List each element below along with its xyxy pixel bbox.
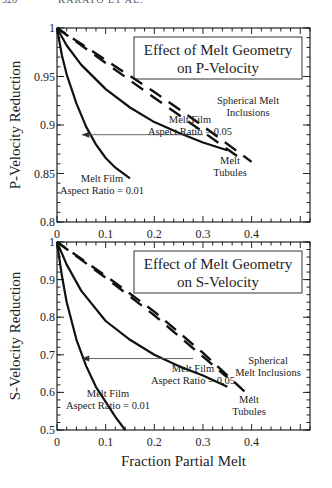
- annotation-label: Tubules: [232, 406, 265, 417]
- x-tick-label: 0.4: [244, 227, 259, 241]
- annotation-label: Aspect Ratio = 0.05: [148, 126, 232, 137]
- x-tick-label: 0.3: [195, 227, 210, 241]
- melt-geometry-figure: 00.10.20.30.40.80.850.90.951P-Velocity R…: [0, 0, 332, 488]
- x-tick-label: 0.4: [244, 435, 259, 449]
- x-tick-label: 0.2: [147, 227, 162, 241]
- s-velocity-chart: 00.10.20.30.40.50.60.70.80.91S-Velocity …: [7, 235, 310, 469]
- chart-title-line-1: Effect of Melt Geometry: [144, 256, 293, 272]
- annotation-label: Melt Film: [172, 363, 214, 374]
- x-tick-label: 0.2: [147, 435, 162, 449]
- y-tick-label: 0.95: [34, 70, 55, 84]
- y-tick-label: 1: [49, 235, 55, 249]
- x-tick-label: 0: [54, 435, 60, 449]
- annotation-label: Melt Film: [169, 114, 211, 125]
- chart-title-line-1: Effect of Melt Geometry: [144, 42, 293, 58]
- y-tick-label: 0.9: [40, 118, 55, 132]
- y-axis-label: S-Velocity Reduction: [7, 271, 23, 400]
- annotation-label: Spherical Melt: [217, 95, 279, 106]
- y-tick-label: 0.5: [40, 423, 55, 437]
- annotation-label: Aspect Ratio = 0.05: [151, 375, 235, 386]
- annotation-label: Aspect Ratio = 0.01: [60, 185, 144, 196]
- annotation-label: Tubules: [213, 167, 246, 178]
- annotation-label: Inclusions: [226, 107, 269, 118]
- annotation-label: Melt Film: [81, 173, 123, 184]
- y-tick-label: 0.8: [40, 215, 55, 229]
- annotation-label: Melt: [239, 394, 259, 405]
- x-tick-label: 0.1: [98, 435, 113, 449]
- chart-title-line-2: on S-Velocity: [177, 274, 260, 290]
- annotation-label: Melt Inclusions: [235, 367, 301, 378]
- y-tick-label: 0.6: [40, 385, 55, 399]
- chart-title-line-2: on P-Velocity: [177, 60, 260, 76]
- y-tick-label: 1: [49, 21, 55, 35]
- annotation-label: Aspect Ratio = 0.01: [66, 400, 150, 411]
- y-tick-label: 0.85: [34, 167, 55, 181]
- annotation-label: Melt: [220, 155, 240, 166]
- x-tick-label: 0.3: [195, 435, 210, 449]
- p-velocity-chart: 00.10.20.30.40.80.850.90.951P-Velocity R…: [7, 21, 310, 241]
- x-tick-label: 0.1: [98, 227, 113, 241]
- arrow-head-icon: [81, 132, 89, 138]
- y-tick-label: 0.9: [40, 273, 55, 287]
- y-axis-label: P-Velocity Reduction: [7, 60, 23, 189]
- annotation-label: Melt Film: [87, 388, 129, 399]
- y-tick-label: 0.7: [40, 348, 55, 362]
- annotation-label: Spherical: [248, 355, 288, 366]
- x-axis-label: Fraction Partial Melt: [121, 453, 247, 469]
- y-tick-label: 0.8: [40, 310, 55, 324]
